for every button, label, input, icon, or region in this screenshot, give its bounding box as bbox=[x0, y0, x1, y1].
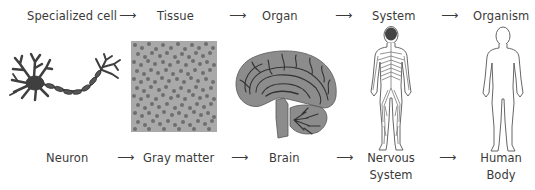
example-label-line: Nervous bbox=[367, 150, 415, 167]
gray-matter-illustration bbox=[131, 41, 217, 132]
brain-illustration bbox=[232, 48, 340, 140]
human-body-illustration bbox=[481, 26, 525, 154]
example-label-neuron: Neuron bbox=[46, 151, 88, 165]
example-label-brain: Brain bbox=[269, 151, 300, 165]
example-label-line: System bbox=[367, 167, 415, 184]
level-label-organ: Organ bbox=[262, 9, 298, 23]
arrow-icon: ⟶ bbox=[441, 8, 458, 22]
arrow-icon: ⟶ bbox=[119, 8, 136, 22]
example-label-gray-matter: Gray matter bbox=[143, 151, 214, 165]
level-label-tissue: Tissue bbox=[157, 9, 194, 23]
arrow-icon: ⟶ bbox=[439, 150, 456, 164]
arrow-icon: ⟶ bbox=[117, 150, 134, 164]
level-label-system: System bbox=[372, 9, 415, 23]
example-label-nervous-system: Nervous System bbox=[367, 150, 415, 184]
nervous-system-illustration bbox=[368, 26, 414, 154]
example-label-line: Body bbox=[480, 167, 521, 184]
level-label-organism: Organism bbox=[473, 9, 529, 23]
arrow-icon: ⟶ bbox=[229, 8, 246, 22]
arrow-icon: ⟶ bbox=[231, 150, 248, 164]
arrow-icon: ⟶ bbox=[336, 150, 353, 164]
example-label-human-body: Human Body bbox=[480, 150, 521, 184]
arrow-icon: ⟶ bbox=[335, 8, 352, 22]
level-label-specialized-cell: Specialized cell bbox=[27, 9, 117, 23]
neuron-illustration bbox=[8, 50, 123, 105]
example-label-line: Human bbox=[480, 150, 521, 167]
